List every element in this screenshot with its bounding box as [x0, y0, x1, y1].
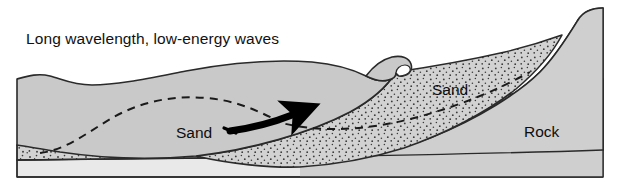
label-rock: Rock: [524, 123, 560, 140]
page-title: Long wavelength, low-energy waves: [26, 30, 279, 47]
coastal-profile-diagram: Long wavelength, low-energy waves Sand S…: [0, 0, 620, 190]
label-sand-lower: Sand: [176, 124, 212, 141]
label-sand-upper: Sand: [432, 81, 468, 98]
